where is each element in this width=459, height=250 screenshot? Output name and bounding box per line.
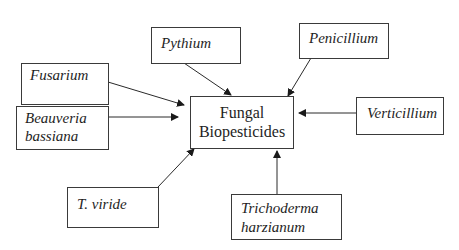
node-pythium: Pythium <box>151 27 241 64</box>
node-label: Verticillium <box>367 105 437 122</box>
center-label-line2: Biopesticides <box>191 123 293 141</box>
node-label: Pythium <box>161 35 211 52</box>
diagram-canvas: Pythium Penicillium Fusarium Beauveria b… <box>0 0 459 250</box>
arrow-tviride <box>158 149 194 187</box>
node-beauveria-bassiana: Beauveria bassiana <box>16 106 109 150</box>
node-t-viride: T. viride <box>67 187 159 228</box>
node-trichoderma-harzianum: Trichoderma harzianum <box>231 194 342 240</box>
node-label-line1: Beauveria <box>25 110 87 127</box>
center-label-line1: Fungal <box>191 104 293 122</box>
arrow-fusarium <box>108 82 184 105</box>
node-label-line2: bassiana <box>25 128 78 145</box>
node-label: Penicillium <box>309 30 378 47</box>
node-fungal-biopesticides: Fungal Biopesticides <box>190 96 294 149</box>
node-label: T. viride <box>77 196 127 213</box>
arrow-pythium <box>184 63 231 95</box>
arrow-penicillium <box>288 58 311 96</box>
node-label: Fusarium <box>30 67 88 84</box>
node-penicillium: Penicillium <box>299 23 389 59</box>
node-fusarium: Fusarium <box>21 63 109 105</box>
node-label-line2: harzianum <box>241 219 305 236</box>
node-verticillium: Verticillium <box>356 97 444 135</box>
node-label-line1: Trichoderma <box>241 200 319 217</box>
